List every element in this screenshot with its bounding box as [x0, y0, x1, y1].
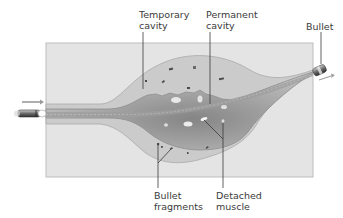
entry-bullet-icon: [14, 110, 46, 117]
incoming-direction-arrow: [22, 100, 44, 105]
label-detached-muscle: Detached muscle: [216, 190, 262, 212]
diagram-canvas: [0, 0, 343, 218]
label-permanent-cavity: Permanent cavity: [206, 9, 258, 31]
label-bullet-fragments: Bullet fragments: [154, 190, 203, 212]
gunshot-wound-diagram: Temporary cavity Permanent cavity Bullet…: [0, 0, 343, 218]
label-bullet: Bullet: [306, 21, 333, 32]
exit-bullet-icon: [312, 64, 327, 77]
label-temporary-cavity: Temporary cavity: [139, 9, 189, 31]
exit-direction-arrow: [319, 74, 335, 81]
